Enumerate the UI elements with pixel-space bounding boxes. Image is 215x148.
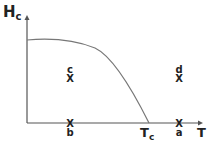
critical-temperature-label: Tc (140, 125, 154, 142)
y-axis-label: Hc (3, 3, 22, 22)
point-c-marker: X (66, 73, 74, 84)
phase-diagram: Hc c X d X X b X a Tc T (0, 0, 215, 148)
point-b-label: b (66, 127, 73, 138)
y-axis-arrow-icon (25, 15, 30, 20)
point-d-marker: X (175, 73, 183, 84)
critical-field-curve (27, 39, 149, 123)
x-axis-label: T (197, 125, 206, 140)
point-a-label: a (176, 127, 183, 138)
